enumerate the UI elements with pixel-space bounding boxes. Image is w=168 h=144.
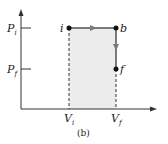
point-b	[114, 26, 119, 31]
vi-label: Vi	[64, 112, 74, 127]
point-f	[114, 67, 119, 72]
work-area-shade	[69, 28, 116, 109]
pi-label: Pi	[6, 22, 17, 37]
point-b-label: b	[120, 22, 127, 35]
pf-label: Pf	[6, 63, 18, 78]
vf-label: Vf	[111, 112, 123, 127]
point-i	[67, 26, 72, 31]
pv-diagram: i b f Pi Pf Vi Vf (b)	[0, 0, 168, 144]
point-i-label: i	[60, 22, 64, 35]
point-f-label: f	[119, 63, 126, 76]
figure-caption: (b)	[77, 128, 90, 138]
y-axis-arrow-icon	[19, 9, 24, 16]
x-axis-arrow-icon	[150, 107, 157, 112]
